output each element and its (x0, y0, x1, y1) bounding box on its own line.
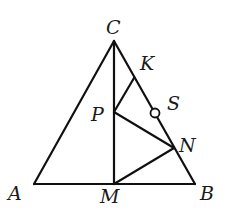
point-markers (151, 109, 160, 118)
label-B: B (199, 182, 214, 204)
segment-MN (114, 148, 174, 184)
segment-PK (114, 78, 134, 112)
label-K: K (139, 52, 156, 74)
label-C: C (106, 16, 121, 38)
triangle-diagram: A B C M K P S N (0, 0, 225, 213)
point-marker-S (151, 109, 160, 118)
label-M: M (99, 185, 120, 207)
label-S: S (167, 92, 180, 114)
label-A: A (6, 182, 22, 204)
label-N: N (178, 134, 197, 156)
label-P: P (90, 103, 105, 125)
